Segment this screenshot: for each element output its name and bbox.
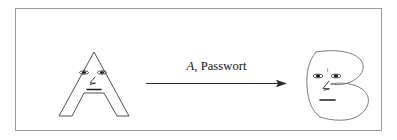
message-arrow (144, 75, 289, 93)
diagram-screenshot: letter A drawn as an outline triangle wi… (0, 0, 397, 140)
bob-right-pupil-icon (334, 75, 338, 78)
diagram-frame: letter A drawn as an outline triangle wi… (15, 8, 382, 131)
message-label: A, Passwort (144, 59, 289, 74)
alice-left-pupil-icon (82, 71, 86, 74)
participant-alice-figure: letter A drawn as an outline triangle wi… (54, 47, 136, 121)
bob-nose-icon (323, 81, 330, 90)
alice-nose-icon (90, 77, 96, 84)
letter-b-outline (307, 51, 369, 121)
message-sender-label: A (186, 59, 194, 73)
bob-left-pupil-icon (316, 75, 320, 78)
message-payload-label: Passwort (201, 59, 247, 73)
alice-face (79, 71, 106, 90)
participant-bob-figure: letter B drawn as an outline shape with … (304, 45, 378, 125)
alice-right-pupil-icon (100, 71, 104, 74)
